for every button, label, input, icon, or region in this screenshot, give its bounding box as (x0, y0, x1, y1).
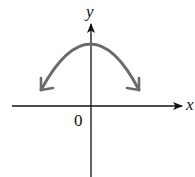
parabola-curve (41, 44, 139, 90)
x-axis-label: x (186, 96, 194, 113)
graph-canvas (0, 0, 195, 177)
parabola-diagram: y x 0 (0, 0, 195, 177)
origin-label: 0 (74, 112, 83, 129)
y-axis-label: y (86, 3, 94, 20)
